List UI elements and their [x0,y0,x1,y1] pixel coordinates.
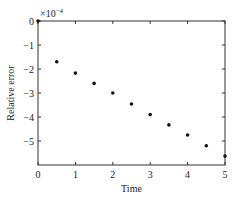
data-point [167,123,171,127]
data-point [36,19,40,23]
data-point [186,133,190,137]
data-point [130,102,134,106]
y-tick-label: −3 [23,88,34,99]
x-tick-label: 1 [73,169,78,180]
y-tick-label: −1 [23,40,34,51]
plot-area: 0123450−1−2−3−4−5×10−4TimeRelative error [5,7,228,194]
y-multiplier-label: ×10−4 [40,7,64,19]
data-point [223,154,227,158]
x-tick-label: 0 [36,169,41,180]
data-point [148,113,152,117]
x-tick-label: 3 [148,169,153,180]
scatter-chart: 0123450−1−2−3−4−5×10−4TimeRelative error [0,0,233,200]
x-tick-label: 2 [110,169,115,180]
x-tick-label: 4 [185,169,190,180]
y-tick-label: −4 [23,112,34,123]
x-tick-label: 5 [223,169,228,180]
y-tick-label: −2 [23,64,34,75]
data-point [74,71,78,75]
data-point [111,91,115,95]
plot-frame [38,21,225,165]
data-point [55,60,59,64]
y-axis-label: Relative error [5,65,16,121]
y-tick-label: −5 [23,136,34,147]
x-axis-label: Time [121,183,142,194]
data-point [92,82,96,86]
data-point [205,144,209,148]
y-tick-label: 0 [29,16,34,27]
